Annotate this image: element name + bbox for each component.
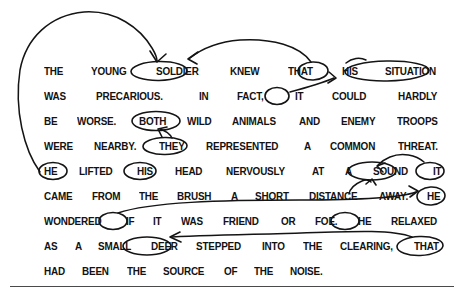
passage-text-block: THE YOUNG SOLDIER KNEW THAT HIS SITUATIO… [0,0,462,295]
word: WORSE. [77,114,116,129]
word: OF [224,264,237,279]
word: IT [295,89,303,104]
word: REPRESENTED [206,139,278,154]
passage-line-5: HE LIFTED HIS HEAD NERVOUSLY AT A SOUND … [44,164,442,179]
word: THAT [414,239,439,254]
word: HE [427,189,440,204]
word: OR [281,214,295,229]
word: HARDLY [398,89,437,104]
word: IF [126,214,134,229]
passage-line-1: THE YOUNG SOLDIER KNEW THAT HIS SITUATIO… [44,64,442,79]
word: A [304,139,311,154]
word: NEARBY. [94,139,136,154]
word: COULD [332,89,366,104]
word: FACT, [237,89,264,104]
word: BEEN [82,264,109,279]
word: DEER [151,239,178,254]
word: COMMON [330,139,375,154]
word: HE [44,164,57,179]
passage-line-9: HAD BEEN THE SOURCE OF THE NOISE. [44,264,326,279]
word: HAD [44,264,65,279]
word: STEPPED [196,239,241,254]
word: RELAXED [391,214,437,229]
word: SOUND [373,164,408,179]
word: THAT [288,64,313,79]
word: THE [303,239,322,254]
passage-line-3: BE WORSE. BOTH WILD ANIMALS AND ENEMY TR… [44,114,442,129]
word: SOLDIER [156,64,199,79]
word: ENEMY [341,114,375,129]
word: BOTH [139,114,166,129]
word: AS [44,239,57,254]
passage-line-2: WAS PRECARIOUS. IN FACT, IT COULD HARDLY [44,89,442,104]
word: NERVOUSLY [226,164,285,179]
word: AND [299,114,320,129]
word: FROM [92,189,120,204]
passage-line-8: AS A SMALL DEER STEPPED INTO THE CLEARIN… [44,239,442,254]
word: KNEW [230,64,260,79]
word: HE [358,214,371,229]
word: AT [312,164,324,179]
passage-line-7: WONDERED IF IT WAS FRIEND OR FOE. HE REL… [44,214,442,229]
word: A [345,164,352,179]
word: HIS [342,64,358,79]
word: HEAD [175,164,202,179]
word: THE [254,264,273,279]
word: FOE. [315,214,337,229]
word: WONDERED [44,214,101,229]
word: HIS [137,164,153,179]
word: THEY [159,139,185,154]
word: SMALL [98,239,131,254]
word: INTO [262,239,285,254]
word: WAS [44,89,66,104]
passage-line-6: CAME FROM THE BRUSH A SHORT DISTANCE AWA… [44,189,442,204]
word: THREAT. [398,139,438,154]
word: SHORT [255,189,289,204]
word: IT [433,164,441,179]
word: YOUNG [91,64,126,79]
word: THE [127,264,146,279]
word: NOISE. [290,264,322,279]
word: BE [44,114,57,129]
word: DISTANCE [309,189,357,204]
word: AWAY. [379,189,408,204]
word: ANIMALS [232,114,276,129]
word: THE [44,64,63,79]
word: TROOPS [397,114,438,129]
word: CAME [44,189,72,204]
word: SOURCE [163,264,204,279]
word: BRUSH [177,189,211,204]
word: WERE [44,139,73,154]
word: WAS [181,214,203,229]
word: A [231,189,238,204]
word: IT [153,214,161,229]
word: FRIEND [223,214,259,229]
word: A [75,239,82,254]
word: IN [199,89,209,104]
passage-line-4: WERE NEARBY. THEY REPRESENTED A COMMON T… [44,139,442,154]
word: SITUATION [385,64,436,79]
word: THE [139,189,158,204]
word: WILD [187,114,212,129]
word: PRECARIOUS. [96,89,163,104]
word: CLEARING, [340,239,393,254]
worksheet-page: THE YOUNG SOLDIER KNEW THAT HIS SITUATIO… [0,0,462,295]
word: LIFTED [79,164,113,179]
